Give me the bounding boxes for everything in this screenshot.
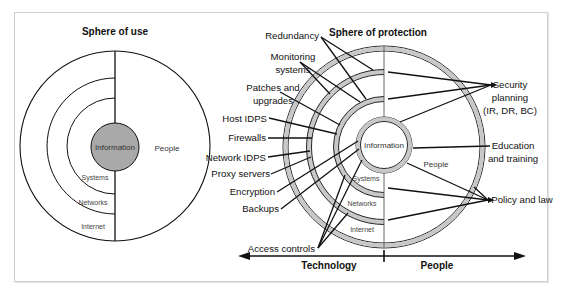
label-redundancy: Redundancy — [265, 30, 319, 41]
label-host-idps: Host IDPS — [222, 113, 267, 124]
internet-label: Internet — [350, 226, 374, 233]
systems-label: Systems — [353, 175, 380, 183]
networks-label: Networks — [347, 200, 377, 207]
networks-label: Networks — [78, 199, 108, 206]
sphere-of-use-title: Sphere of use — [82, 26, 149, 37]
label-network-idps: Network IDPS — [206, 152, 266, 163]
label-encryption: Encryption — [230, 186, 275, 197]
information-label: Information — [364, 141, 404, 150]
label-monitoring-1: Monitoring — [271, 51, 316, 62]
label-policy-law: Policy and law — [491, 194, 552, 205]
arrow-left-icon — [238, 252, 250, 260]
information-label: Information — [95, 143, 135, 152]
label-backups: Backups — [242, 203, 279, 214]
axis-technology-label: Technology — [301, 260, 357, 271]
label-education-1: Education — [492, 140, 535, 151]
label-security-planning-1: Security — [493, 79, 528, 90]
label-proxy-servers: Proxy servers — [211, 168, 270, 179]
label-firewalls: Firewalls — [228, 132, 266, 143]
label-education-2: and training — [488, 153, 538, 164]
systems-label: Systems — [82, 174, 109, 182]
people-label: People — [155, 144, 180, 153]
diagram-canvas: Sphere of use Information People Systems… — [0, 0, 568, 298]
label-security-planning-3: (IR, DR, BC) — [483, 105, 537, 116]
label-security-planning-2: planning — [492, 92, 528, 103]
label-patches-1: Patches and — [246, 82, 299, 93]
sphere-of-protection-title: Sphere of protection — [329, 27, 427, 38]
label-access-controls: Access controls — [248, 243, 315, 254]
people-label: People — [424, 160, 449, 169]
sphere-of-protection: Sphere of protection Information People … — [206, 27, 553, 271]
sphere-of-use: Sphere of use Information People Systems… — [20, 26, 210, 241]
internet-label: Internet — [81, 223, 105, 230]
axis-people-label: People — [421, 260, 454, 271]
arrow-right-icon — [514, 252, 526, 260]
